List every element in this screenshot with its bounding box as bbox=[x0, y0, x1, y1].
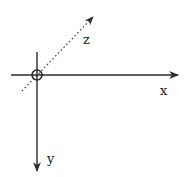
z-axis-line bbox=[22, 17, 93, 91]
x-axis-label: x bbox=[160, 84, 167, 97]
axes-drawing bbox=[0, 0, 184, 177]
coordinate-axes-diagram: z x y bbox=[0, 0, 184, 177]
y-axis-label: y bbox=[47, 152, 54, 165]
z-axis-label: z bbox=[83, 33, 90, 46]
